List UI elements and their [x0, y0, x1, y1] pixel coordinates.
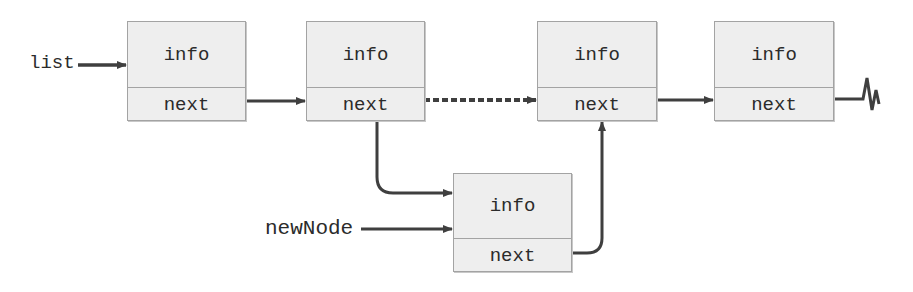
- info-field: info: [454, 174, 571, 238]
- new-node: info next: [453, 173, 572, 272]
- next-field: next: [128, 87, 245, 122]
- list-node-3: info next: [537, 21, 657, 121]
- list-node-4: info next: [714, 21, 834, 121]
- list-node-2: info next: [306, 21, 425, 121]
- info-field: info: [538, 22, 656, 87]
- info-field: info: [128, 22, 245, 87]
- next-field: next: [454, 238, 571, 273]
- list-node-1: info next: [127, 21, 246, 121]
- info-field: info: [715, 22, 833, 87]
- next-field: next: [538, 87, 656, 122]
- n2-to-newnode-arrow: [377, 121, 452, 193]
- linked-list-insertion-diagram: list newNode info next info next info ne…: [0, 0, 913, 292]
- info-field: info: [307, 22, 424, 87]
- newnode-label: newNode: [265, 218, 353, 239]
- next-field: next: [715, 87, 833, 122]
- next-field: next: [307, 87, 424, 122]
- list-label: list: [29, 54, 75, 73]
